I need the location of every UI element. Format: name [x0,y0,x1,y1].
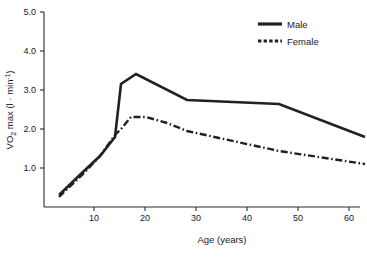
y-tick-label-1: 1.0 [23,163,36,173]
x-tick-label-30: 30 [191,213,201,223]
x-tick-marks [94,207,349,211]
x-tick-label-60: 60 [344,213,354,223]
y-tick-label-3: 3.0 [23,85,36,95]
x-tick-label-50: 50 [293,213,303,223]
y-tick-label-4: 4.0 [23,46,36,56]
svg-text:VO2 max (l · min-1): VO2 max (l · min-1) [4,71,17,150]
data-series-group [59,74,365,197]
x-tick-label-10: 10 [89,213,99,223]
series-line-female [59,117,365,197]
chart-legend: Male Female [258,19,319,47]
y-tick-label-5: 5.0 [23,7,36,17]
vo2max-age-line-chart: 5.0 4.0 3.0 2.0 1.0 10 20 30 40 50 60 Ag… [0,0,367,258]
legend-label-female: Female [287,36,319,47]
y-axis-title-rest: max (l · min [4,80,15,132]
y-tick-label-2: 2.0 [23,124,36,134]
x-tick-label-20: 20 [140,213,150,223]
x-tick-label-40: 40 [242,213,252,223]
series-line-male [59,74,365,195]
y-tick-labels: 5.0 4.0 3.0 2.0 1.0 [23,7,36,173]
legend-label-male: Male [287,19,308,30]
y-axis-title: VO2 max (l · min-1) [4,71,17,150]
y-axis-title-close: ) [4,71,15,74]
chart-canvas: 5.0 4.0 3.0 2.0 1.0 10 20 30 40 50 60 Ag… [0,0,367,258]
x-tick-labels: 10 20 30 40 50 60 [89,213,354,223]
y-axis-title-o: O [4,136,15,143]
y-tick-marks [40,12,44,168]
x-axis-title: Age (years) [197,234,246,245]
